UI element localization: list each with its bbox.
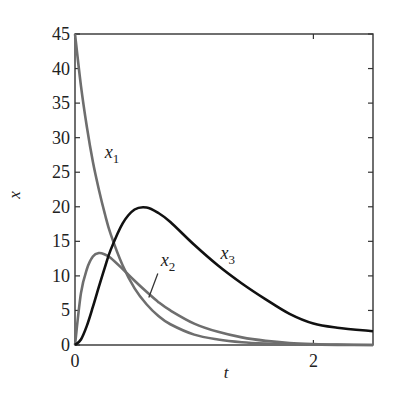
series-layer bbox=[75, 34, 373, 345]
x-axis-label: t bbox=[224, 363, 230, 382]
plot-border bbox=[75, 34, 373, 345]
x-tick-label: 2 bbox=[309, 351, 318, 371]
y-tick-label: 25 bbox=[52, 162, 70, 182]
label-x3: x3 bbox=[219, 243, 235, 267]
series-x2 bbox=[75, 253, 373, 345]
y-tick-label: 0 bbox=[61, 335, 70, 355]
y-tick-label: 40 bbox=[52, 59, 70, 79]
chart: 051015202530354045 02 x1x2x3 x t bbox=[0, 0, 393, 396]
y-tick-label: 5 bbox=[61, 300, 70, 320]
y-tick-label: 20 bbox=[52, 197, 70, 217]
y-tick-label: 10 bbox=[52, 266, 70, 286]
y-tick-label: 45 bbox=[52, 24, 70, 44]
x-axis: 02 bbox=[71, 34, 318, 371]
series-x3 bbox=[75, 207, 373, 345]
x-tick-label: 0 bbox=[71, 351, 80, 371]
y-tick-label: 35 bbox=[52, 93, 70, 113]
y-tick-label: 15 bbox=[52, 231, 70, 251]
leader-line bbox=[149, 274, 158, 298]
label-x1: x1 bbox=[104, 142, 120, 166]
series-x1 bbox=[75, 34, 373, 345]
label-x2: x2 bbox=[160, 250, 176, 274]
y-axis-label: x bbox=[5, 191, 24, 200]
line-chart: 051015202530354045 02 x1x2x3 x t bbox=[0, 0, 393, 396]
plot-frame bbox=[75, 34, 373, 345]
y-tick-label: 30 bbox=[52, 128, 70, 148]
